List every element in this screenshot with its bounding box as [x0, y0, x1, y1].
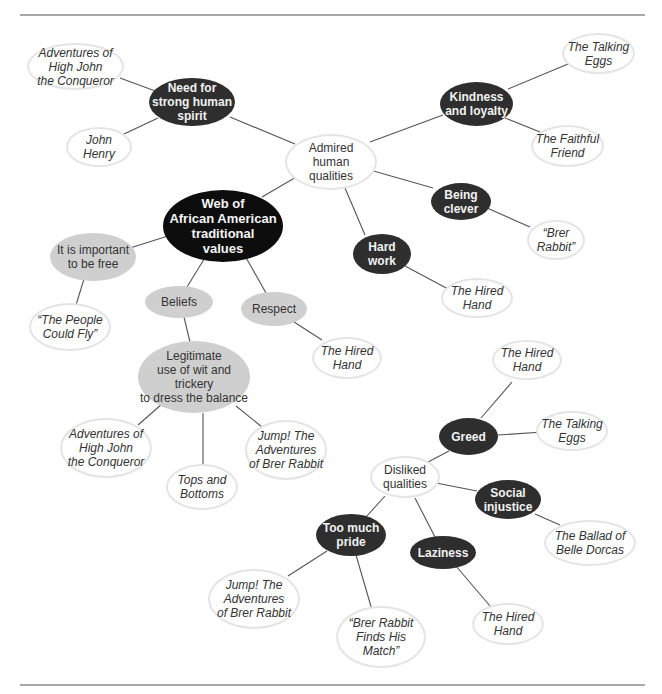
- node-ballad-belle-dorcas: The Ballad of Belle Dorcas: [544, 520, 636, 566]
- node-disliked-qualities: Disliked qualities: [370, 456, 440, 498]
- node-high-john-2: Adventures of High John the Conqueror: [60, 418, 152, 478]
- node-jump-brer-rabbit-1: Jump! The Adventures of Brer Rabbit: [245, 420, 327, 480]
- node-kindness-and-loyalty: Kindness and loyalty: [440, 82, 513, 126]
- node-jump-brer-rabbit-2: Jump! The Adventures of Brer Rabbit: [208, 569, 300, 629]
- node-laziness: Laziness: [410, 536, 476, 569]
- node-greed: Greed: [439, 418, 498, 455]
- node-brer-rabbit-finds-match: “Brer Rabbit Finds His Match”: [336, 606, 426, 668]
- node-admired-human-qualities: Admired human qualities: [285, 134, 377, 190]
- node-hired-hand-4: The Hired Hand: [472, 603, 544, 645]
- node-need-strong-human-spirit: Need for strong human spirit: [149, 78, 235, 126]
- node-hired-hand-2: The Hired Hand: [312, 337, 382, 379]
- node-high-john-1: Adventures of High John the Conqueror: [27, 43, 124, 90]
- node-beliefs: Beliefs: [145, 286, 213, 318]
- node-talking-eggs-1: The Talking Eggs: [562, 33, 635, 74]
- node-people-could-fly: “The People Could Fly”: [29, 303, 111, 351]
- node-talking-eggs-2: The Talking Eggs: [536, 411, 608, 451]
- node-hired-hand-1: The Hired Hand: [441, 278, 513, 318]
- node-john-henry: John Henry: [66, 127, 132, 167]
- node-faithful-friend: The Faithful Friend: [531, 125, 604, 167]
- node-brer-rabbit: “Brer Rabbit”: [527, 220, 585, 260]
- node-web-of-values-root: Web of African American traditional valu…: [163, 190, 283, 262]
- node-important-to-be-free: It is important to be free: [50, 233, 136, 281]
- node-hired-hand-3: The Hired Hand: [492, 340, 562, 380]
- node-legitimate-wit-trickery: Legitimate use of wit and trickery to dr…: [138, 341, 250, 413]
- node-hard-work: Hard work: [353, 234, 411, 274]
- node-social-injustice: Social injustice: [475, 480, 541, 519]
- node-too-much-pride: Too much pride: [316, 514, 386, 556]
- node-being-clever: Being clever: [431, 183, 491, 220]
- node-respect: Respect: [241, 292, 307, 326]
- node-tops-and-bottoms: Tops and Bottoms: [166, 464, 238, 510]
